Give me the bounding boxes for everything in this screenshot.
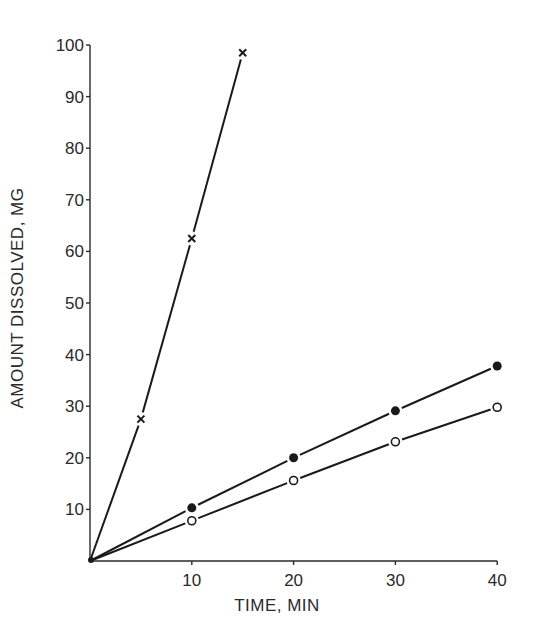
y-tick-label: 70: [65, 191, 84, 210]
series-cross-markers: [90, 49, 246, 561]
y-tick-label: 40: [65, 346, 84, 365]
filled-circle-marker-icon: [289, 453, 298, 462]
filled-circle-marker-icon: [187, 503, 196, 512]
series-segment: [143, 245, 190, 412]
y-tick-label: 50: [65, 294, 84, 313]
y-tick-label: 20: [65, 449, 84, 468]
series-segment: [198, 461, 287, 505]
origin-marker-icon: [88, 557, 94, 563]
ticks: 10203040506070809010010203040: [56, 36, 507, 590]
x-tick-label: 30: [386, 571, 405, 590]
filled-circle-marker-icon: [391, 406, 400, 415]
series-open-circles: [90, 403, 501, 561]
series-segment: [90, 523, 185, 561]
series-group: [88, 49, 502, 563]
y-tick-label: 90: [65, 88, 84, 107]
filled-circle-marker-icon: [493, 361, 502, 370]
x-axis-label: TIME, MIN: [234, 596, 320, 615]
series-segment: [194, 59, 241, 231]
series-filled-circles: [90, 361, 502, 561]
series-segment: [198, 483, 287, 518]
open-circle-marker-icon: [290, 477, 298, 485]
open-circle-marker-icon: [391, 438, 399, 446]
series-segment: [90, 426, 139, 561]
dissolution-chart: 10203040506070809010010203040 TIME, MIN …: [0, 0, 537, 639]
series-segment: [402, 409, 491, 439]
y-tick-label: 10: [65, 500, 84, 519]
open-circle-marker-icon: [493, 403, 501, 411]
series-segment: [402, 369, 491, 408]
x-tick-label: 20: [284, 571, 303, 590]
x-tick-label: 10: [182, 571, 201, 590]
y-tick-label: 60: [65, 242, 84, 261]
y-tick-label: 30: [65, 397, 84, 416]
x-tick-label: 40: [488, 571, 507, 590]
open-circle-marker-icon: [188, 517, 196, 525]
y-axis-label: AMOUNT DISSOLVED, MG: [8, 188, 27, 409]
y-tick-label: 80: [65, 139, 84, 158]
y-tick-label: 100: [56, 36, 84, 55]
